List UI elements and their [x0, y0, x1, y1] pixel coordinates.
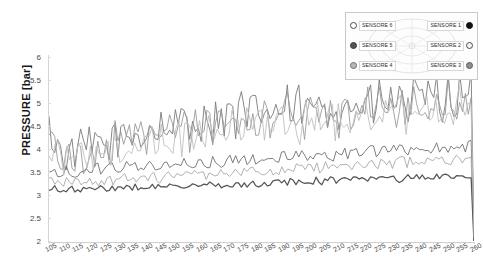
legend-marker-icon: [350, 42, 357, 49]
x-tick-label: 210: [332, 242, 346, 254]
x-tick-mark: [227, 242, 228, 244]
x-tick-mark: [172, 242, 173, 244]
x-tick-label: 130: [113, 242, 127, 254]
series-line: [49, 155, 474, 241]
x-tick-label: 200: [304, 242, 318, 254]
x-tick-mark: [378, 242, 379, 244]
x-tick-label: 250: [442, 242, 456, 254]
x-tick-mark: [433, 242, 434, 244]
x-tick-mark: [392, 242, 393, 244]
x-tick-mark: [90, 242, 91, 244]
x-tick-label: 245: [428, 242, 442, 254]
x-tick-label: 220: [359, 242, 373, 254]
x-tick-mark: [405, 242, 406, 244]
series-container: [49, 57, 474, 241]
x-tick-mark: [131, 242, 132, 244]
y-tick-mark: [48, 103, 51, 104]
x-tick-label: 215: [346, 242, 360, 254]
y-tick-mark: [48, 126, 51, 127]
x-tick-label: 185: [263, 242, 277, 254]
x-tick-label: 165: [209, 242, 223, 254]
x-tick-label: 160: [195, 242, 209, 254]
x-tick-mark: [309, 242, 310, 244]
x-tick-label: 260: [469, 242, 483, 254]
y-tick-mark: [48, 218, 51, 219]
legend-entry[interactable]: SENSORE 1: [427, 21, 473, 30]
y-tick-mark: [48, 172, 51, 173]
x-tick-label: 190: [277, 242, 291, 254]
x-tick-label: 140: [140, 242, 154, 254]
legend-label: SENSORE 2: [427, 41, 464, 50]
legend-row: SENSORE 5SENSORE 2: [350, 38, 473, 55]
x-tick-mark: [337, 242, 338, 244]
x-tick-label: 135: [126, 242, 140, 254]
legend-label: SENSORE 6: [359, 21, 396, 30]
legend-marker-icon: [350, 62, 357, 69]
x-tick-mark: [241, 242, 242, 244]
x-tick-mark: [145, 242, 146, 244]
legend-row: SENSORE 6SENSORE 1: [350, 18, 473, 35]
plot-area: [49, 57, 474, 241]
y-tick-mark: [48, 80, 51, 81]
legend-label: SENSORE 3: [427, 61, 464, 70]
legend-marker-icon: [466, 62, 473, 69]
legend-panel: SENSORE 6SENSORE 1SENSORE 5SENSORE 2SENS…: [345, 12, 478, 80]
x-tick-mark: [268, 242, 269, 244]
x-tick-label: 195: [291, 242, 305, 254]
legend-label: SENSORE 5: [359, 41, 396, 50]
x-tick-mark: [49, 242, 50, 244]
series-line: [49, 86, 474, 237]
x-tick-mark: [104, 242, 105, 244]
x-tick-mark: [214, 242, 215, 244]
x-tick-mark: [364, 242, 365, 244]
x-tick-label: 205: [318, 242, 332, 254]
x-tick-mark: [419, 242, 420, 244]
y-tick-mark: [48, 149, 51, 150]
legend-label: SENSORE 1: [427, 21, 464, 30]
pressure-chart: PRESSURE [bar] 65.554.543.532.52 1051101…: [0, 0, 483, 280]
x-tick-label: 170: [222, 242, 236, 254]
x-tick-label: 115: [71, 242, 84, 253]
x-tick-label: 155: [181, 242, 195, 254]
y-tick-mark: [48, 57, 51, 58]
x-tick-mark: [460, 242, 461, 244]
legend-entry[interactable]: SENSORE 4: [350, 61, 396, 70]
legend-label: SENSORE 4: [359, 61, 396, 70]
x-tick-label: 225: [373, 242, 387, 254]
x-tick-mark: [323, 242, 324, 244]
x-tick-label: 120: [85, 242, 99, 254]
legend-entry[interactable]: SENSORE 5: [350, 41, 396, 50]
x-tick-mark: [63, 242, 64, 244]
x-tick-mark: [447, 242, 448, 244]
x-tick-label: 110: [58, 242, 71, 253]
x-tick-label: 145: [154, 242, 168, 254]
x-tick-mark: [118, 242, 119, 244]
x-tick-mark: [200, 242, 201, 244]
legend-marker-icon: [466, 42, 473, 49]
x-tick-label: 125: [99, 242, 113, 254]
x-tick-mark: [474, 242, 475, 244]
legend-row: SENSORE 4SENSORE 3: [350, 58, 473, 75]
legend-entry[interactable]: SENSORE 3: [427, 61, 473, 70]
x-tick-label: 255: [455, 242, 469, 254]
x-tick-label: 175: [236, 242, 250, 254]
x-tick-mark: [186, 242, 187, 244]
legend-entry[interactable]: SENSORE 2: [427, 41, 473, 50]
legend-marker-icon: [350, 22, 357, 29]
x-tick-mark: [76, 242, 77, 244]
y-tick-mark: [48, 241, 51, 242]
x-tick-mark: [255, 242, 256, 244]
x-tick-label: 150: [167, 242, 181, 254]
x-tick-mark: [351, 242, 352, 244]
legend-marker-icon: [466, 22, 473, 29]
x-tick-mark: [296, 242, 297, 244]
legend-entry[interactable]: SENSORE 6: [350, 21, 396, 30]
x-tick-label: 235: [400, 242, 414, 254]
y-tick-mark: [48, 195, 51, 196]
x-tick-label: 230: [387, 242, 401, 254]
x-tick-label: 180: [250, 242, 264, 254]
x-tick-label: 105: [44, 242, 58, 254]
x-tick-mark: [159, 242, 160, 244]
x-tick-label: 240: [414, 242, 428, 254]
x-tick-mark: [282, 242, 283, 244]
